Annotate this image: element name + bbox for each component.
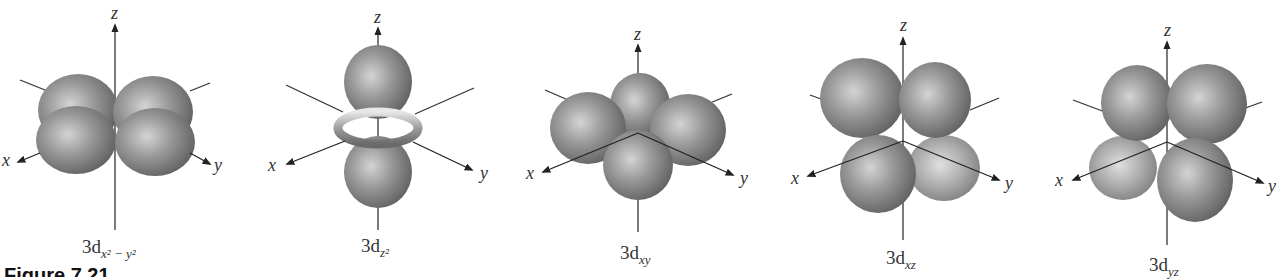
label-subscript: yz (1168, 264, 1179, 279)
label-subscript: xz (905, 257, 916, 272)
label-main: 3d (361, 235, 380, 256)
axis-x-label: x (791, 168, 799, 189)
axis-x-label: x (1055, 170, 1063, 191)
axis-z-label: z (1164, 20, 1171, 41)
label-main: 3d (1149, 254, 1168, 275)
axis-z-label: z (111, 3, 118, 24)
orbital-3d-z2 (286, 28, 474, 230)
orbital-label-3d-yz: 3dyz (1149, 254, 1179, 276)
axis-y-label: y (1268, 176, 1276, 197)
orbital-3d-xy (543, 45, 733, 232)
axis-y-label: y (1005, 173, 1013, 194)
orbital-label-3d-x2-y2: 3dx² − y² (82, 236, 136, 258)
orbital-label-3d-z2: 3dz² (361, 235, 389, 257)
axis-x-label: x (526, 163, 534, 184)
axis-z-label: z (374, 7, 381, 28)
axis-z-label: z (900, 15, 907, 36)
orbital-3d-x2-y2 (18, 25, 210, 230)
orbital-label-3d-xy: 3dxy (620, 242, 651, 264)
axis-y-label: y (214, 155, 222, 176)
orbital-label-3d-xz: 3dxz (886, 247, 916, 269)
label-subscript: z² (380, 245, 389, 260)
figure-caption: Figure 7.21 (4, 262, 110, 277)
label-main: 3d (82, 236, 101, 257)
orbital-3d-yz (1073, 42, 1263, 245)
axis-y-label: y (740, 168, 748, 189)
axis-x-label: x (2, 150, 10, 171)
axis-y-label: y (480, 163, 488, 184)
axis-x-label: x (268, 155, 276, 176)
label-main: 3d (620, 242, 639, 263)
axis-z-label: z (634, 24, 641, 45)
label-subscript: xy (639, 252, 651, 267)
label-subscript: x² − y² (101, 246, 136, 261)
orbital-3d-xz (808, 38, 999, 240)
label-main: 3d (886, 247, 905, 268)
